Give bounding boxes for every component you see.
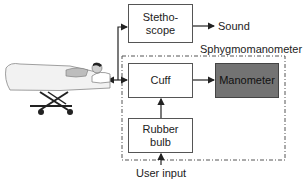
rubber-bulb-label: Rubber bulb xyxy=(142,123,178,149)
sphygmomanometer-group-label: Sphygmomanometer xyxy=(200,43,302,55)
manometer-label: Manometer xyxy=(219,74,275,87)
rubber-bulb-box: Rubber bulb xyxy=(128,118,193,153)
cuff-label: Cuff xyxy=(151,74,171,87)
stethoscope-label: Stetho- scope xyxy=(143,11,178,37)
patient-on-stretcher-icon xyxy=(6,63,111,115)
sound-label: Sound xyxy=(218,20,250,32)
stethoscope-box: Stetho- scope xyxy=(128,4,193,43)
cuff-box: Cuff xyxy=(128,63,193,98)
sphygmomanometer-diagram: Stetho- scope Cuff Manometer Rubber bulb… xyxy=(0,0,307,187)
manometer-box: Manometer xyxy=(215,63,279,98)
arrow-patient-to-stethoscope xyxy=(118,27,127,80)
user-input-label: User input xyxy=(136,167,186,179)
